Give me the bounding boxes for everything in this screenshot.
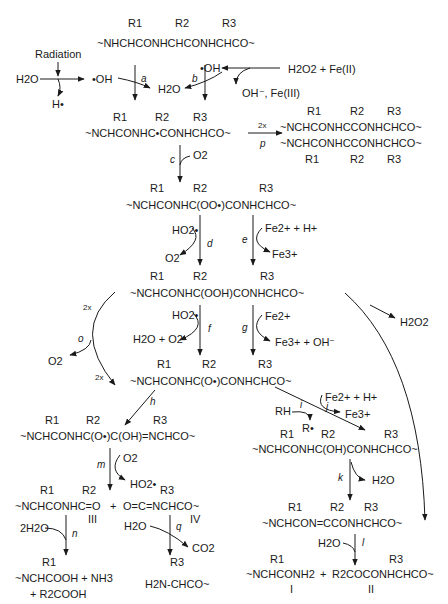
two-x-label: 2x <box>83 303 91 312</box>
step-d-label: d <box>207 238 213 249</box>
r3-label: R3 <box>170 556 184 568</box>
step-l-curve <box>343 543 355 552</box>
step-d-product: O2 <box>165 252 180 264</box>
alcohol-formula: ~NCHCONHC(OH)CONHCHCO~ <box>252 443 418 455</box>
h-radical-label: H• <box>52 98 64 110</box>
r2-label: R2 <box>155 111 169 123</box>
radiation-label: Radiation <box>35 48 81 60</box>
step-k-product: H2O <box>372 474 395 486</box>
h2o2-arrow <box>370 305 395 318</box>
step-n-products: ~NCHCOOH + NH3 <box>15 572 113 584</box>
imine-formula: ~NCHCON=CCONHCHCO~ <box>262 517 402 529</box>
step-g-reagent: Fe2+ <box>265 310 290 322</box>
step-i-reagent: RH <box>275 405 291 417</box>
step-c-curve <box>180 156 190 165</box>
peptide-formula: ~NHCHCONHCHCONHCHCO~ <box>97 37 255 49</box>
species-s5: R1 R2 R3 ~NCHCONHC(O•)CONHCHCO~ <box>130 358 292 387</box>
step-f-product: H2O + O2 <box>133 333 183 345</box>
r1-label: R1 <box>150 270 164 282</box>
hydroxyl-radical-label: •OH <box>92 73 112 85</box>
peroxyl-formula: ~NCHCONHC(OO•)CONHCHCO~ <box>126 199 296 211</box>
step-h-label: h <box>150 396 156 407</box>
species-s8: R1 R2 R3 ~NCHCON=CCONHCHCO~ <box>262 501 402 529</box>
dimer-top-formula: ~NCHCONHCCONHCHCO~ <box>280 121 422 133</box>
step-n-products-2: + R2COOH <box>30 588 87 600</box>
r2-label: R2 <box>350 153 364 165</box>
step-k-curve <box>351 462 365 480</box>
fenton-products-label: OH⁻, Fe(III) <box>242 87 300 99</box>
label-III: III <box>88 513 97 525</box>
r2-label: R2 <box>86 414 100 426</box>
step-j-reagent: Fe2+ + H+ <box>325 391 377 403</box>
species-s2: R1 R2 R3 ~NCHCONHC•CONHCHCO~ <box>85 111 231 139</box>
label-IV: IV <box>190 513 201 525</box>
r1-label: R1 <box>307 105 321 117</box>
step-m-reagent: O2 <box>123 452 138 464</box>
r3-label: R3 <box>384 428 398 440</box>
two-x-label: 2x <box>258 121 266 130</box>
r1-label: R1 <box>40 484 54 496</box>
water-product-label: H2O <box>158 83 181 95</box>
alkoxyl-formula: ~NCHCONHC(O•)CONHCHCO~ <box>130 375 292 387</box>
step-g-label: g <box>242 322 248 333</box>
species-III-IV: R1 R2 R3 ~NCHCONHC=O + O=C=NCHCO~ III IV <box>15 484 201 525</box>
plus-sign: + <box>320 568 326 580</box>
hydroxyl-radical-label-2: •OH <box>200 62 220 74</box>
step-c-label: c <box>170 154 175 165</box>
step-i-product: R• <box>302 422 314 434</box>
reaction-scheme: R1 R2 R3 ~NHCHCONHCHCONHCHCO~ Radiation … <box>0 0 448 604</box>
imidol-radical-formula: ~NCHCONHC(O•)C(OH)=NCHCO~ <box>20 430 195 442</box>
product-IV-formula: O=C=NCHCO~ <box>123 500 199 512</box>
product-II-formula: R2COCONHCHCO~ <box>332 568 434 580</box>
species-s4: R1 R2 R3 ~NCHCONHC(OOH)CONHCHCO~ <box>130 270 304 299</box>
r1-label: R1 <box>305 153 319 165</box>
dimer-bottom-formula: ~NCHCONHCCONHCHCO~ <box>280 137 422 149</box>
r1-label: R1 <box>128 17 142 29</box>
step-l-label: l <box>362 537 365 548</box>
r3-label: R3 <box>387 105 401 117</box>
step-q-product: CO2 <box>192 542 215 554</box>
step-l-reagent: H2O <box>318 537 341 549</box>
step-n-label: n <box>72 528 78 539</box>
r2-label: R2 <box>350 105 364 117</box>
r3-label: R3 <box>389 553 403 565</box>
species-s1: R1 R2 R3 ~NHCHCONHCHCONHCHCO~ <box>97 17 255 49</box>
step-m-label: m <box>97 459 105 470</box>
step-o-arrow <box>93 292 116 385</box>
step-q-curve <box>150 526 188 547</box>
r3-label: R3 <box>387 153 401 165</box>
r1-label: R1 <box>150 182 164 194</box>
step-a-label: a <box>141 73 147 84</box>
product-I-formula: ~NCHCONH2 <box>246 568 315 580</box>
step-q-label: q <box>176 521 182 532</box>
product-III-formula: ~NCHCONHC=O <box>15 500 101 512</box>
r3-label: R3 <box>222 17 236 29</box>
r2-label: R2 <box>321 428 335 440</box>
fenton-byproduct-arrow <box>236 68 250 84</box>
step-b-curve <box>185 72 222 88</box>
step-q-product-formula: H2N-CHCO~ <box>145 578 209 590</box>
species-s7: R1 R2 R3 ~NCHCONHC(OH)CONHCHCO~ <box>252 428 418 455</box>
r1-label: R1 <box>288 501 302 513</box>
step-p-label: p <box>259 138 266 149</box>
r1-label: R1 <box>113 111 127 123</box>
label-II: II <box>368 583 374 595</box>
step-b-label: b <box>192 73 198 84</box>
step-k-label: k <box>338 472 344 483</box>
radical-formula: ~NCHCONHC•CONHCHCO~ <box>85 127 231 139</box>
h2o2-label: H2O2 <box>400 316 429 328</box>
step-c-reagent: O2 <box>193 149 208 161</box>
step-o-label: o <box>78 333 84 344</box>
step-m-product: HO2• <box>130 478 157 490</box>
species-dimer: R1 R2 R3 ~NCHCONHCCONHCHCO~ ~NCHCONHCCON… <box>280 105 422 165</box>
step-q-reagent: H2O <box>124 520 147 532</box>
r1-label: R1 <box>280 428 294 440</box>
step-i-curve <box>292 412 310 420</box>
species-I-II: R1 R3 ~NCHCONH2 + R2COCONHCHCO~ I II <box>246 553 434 595</box>
r3-label: R3 <box>364 501 378 513</box>
label-I: I <box>290 583 293 595</box>
hydroperoxide-formula: ~NCHCONHC(OOH)CONHCHCO~ <box>130 287 304 299</box>
h-radical-arrow <box>58 79 60 96</box>
r2-label: R2 <box>82 484 96 496</box>
r2-label: R2 <box>193 182 207 194</box>
